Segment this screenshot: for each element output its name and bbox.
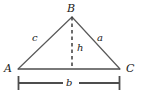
vertex-label-B: B <box>67 3 75 14</box>
side-label-c: c <box>32 33 38 43</box>
altitude-label-h: h <box>77 43 83 53</box>
dimension-label-b: b <box>66 78 72 88</box>
vertex-label-A: A <box>4 63 12 74</box>
triangle-figure: B A C c a h b <box>0 0 142 98</box>
side-label-a: a <box>97 33 103 43</box>
triangle-side-c-line <box>18 17 72 69</box>
vertex-label-C: C <box>126 63 134 74</box>
